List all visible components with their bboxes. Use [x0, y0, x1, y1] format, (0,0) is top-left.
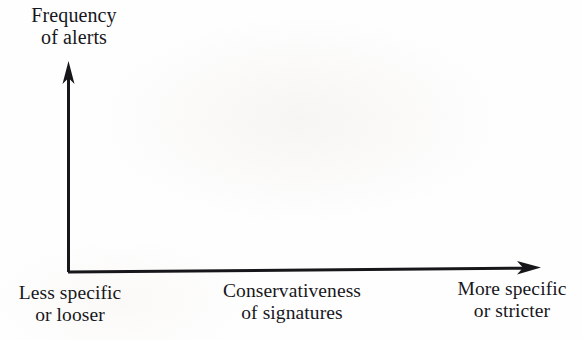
x-axis-title: Conservativeness of signatures — [196, 280, 388, 324]
x-axis-left-endpoint-line-2: or looser — [6, 304, 134, 326]
y-axis-title-line-1: Frequency — [10, 4, 138, 26]
x-axis-title-line-1: Conservativeness — [196, 280, 388, 302]
y-axis-title-line-2: of alerts — [10, 26, 138, 48]
y-axis-title: Frequency of alerts — [10, 4, 138, 49]
x-axis-right-endpoint-line-2: or stricter — [444, 300, 580, 322]
figure-canvas: Frequency of alerts Less specific or loo… — [0, 0, 583, 340]
x-axis-title-line-2: of signatures — [196, 302, 388, 324]
x-axis-right-endpoint-line-1: More specific — [444, 278, 580, 300]
x-axis-right-endpoint-label: More specific or stricter — [444, 278, 580, 322]
x-axis-left-endpoint-label: Less specific or looser — [6, 282, 134, 326]
x-axis-line — [68, 268, 523, 272]
x-axis-left-endpoint-line-1: Less specific — [6, 282, 134, 304]
